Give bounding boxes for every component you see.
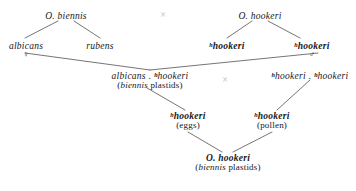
cross-middle-icon: × xyxy=(222,74,228,85)
edge-hookeri-to-hhookeri-right xyxy=(268,21,300,38)
node-hookeri-parent-label: O. hookeri xyxy=(238,11,281,21)
node-biennis-parent: O. biennis xyxy=(45,11,87,21)
node-albicans: albicans ♀ xyxy=(9,41,43,60)
crossing-diagram: O. biennis × O. hookeri albicans ♀ ruben… xyxy=(0,0,356,191)
node-hhookeri-left-label: hookeri xyxy=(213,41,245,51)
node-rubens: rubens xyxy=(86,41,113,51)
node-pollen-line2: (pollen) xyxy=(254,121,289,131)
node-rubens-label: rubens xyxy=(86,41,113,51)
node-hookeri-parent: O. hookeri xyxy=(238,11,281,21)
plastid-source-left: biennis xyxy=(121,80,148,90)
node-hhookeri-hhookeri-right-name: hookeri xyxy=(318,71,349,81)
node-hhookeri-right: hhookeri ♂ xyxy=(294,41,329,60)
edge-biennis-to-albicans xyxy=(25,21,58,38)
edge-hookeri-to-hhookeri-left xyxy=(227,21,252,38)
female-symbol-albicans: ♀ xyxy=(9,51,43,60)
node-offspring: O. hookeri (biennis plastids) xyxy=(195,153,260,173)
cross-top-icon: × xyxy=(160,9,166,20)
node-eggs: hhookeri (eggs) xyxy=(170,111,205,131)
edge-biennis-to-rubens xyxy=(74,21,100,38)
node-offspring-line2: (biennis plastids) xyxy=(195,163,260,173)
edge-eggs-to-offspring xyxy=(188,132,222,152)
node-albicans-hhookeri: albicans . hhookeri (biennis plastids) xyxy=(112,71,189,91)
dot-separator-right: . xyxy=(306,71,314,81)
node-biennis-parent-label: O. biennis xyxy=(45,11,87,21)
edge-layer xyxy=(0,0,356,191)
node-hhookeri-hhookeri: hhookeri . hhookeri xyxy=(272,71,349,81)
plastid-source-offspring: biennis xyxy=(199,162,226,172)
cross-middle-glyph: × xyxy=(222,74,228,85)
edge-f1-right-to-pollen xyxy=(277,80,310,110)
plastid-label-offspring: plastids) xyxy=(226,162,261,172)
node-pollen: hhookeri (pollen) xyxy=(254,111,289,131)
node-albicans-hhookeri-line2: (biennis plastids) xyxy=(112,81,189,91)
plastid-label-left: plastids) xyxy=(148,80,183,90)
edge-hhookeri-male-to-f1-left xyxy=(150,53,318,70)
male-symbol-hhookeri-right: ♂ xyxy=(294,51,329,60)
node-hhookeri-left: hhookeri xyxy=(209,41,244,51)
edge-f1-left-to-eggs xyxy=(147,88,185,110)
node-eggs-line2: (eggs) xyxy=(170,121,205,131)
cross-top-glyph: × xyxy=(160,9,166,20)
edge-pollen-to-offspring xyxy=(233,132,272,152)
node-hhookeri-hhookeri-left-name: hookeri xyxy=(275,71,306,81)
edge-albicans-to-f1-left xyxy=(25,53,150,70)
